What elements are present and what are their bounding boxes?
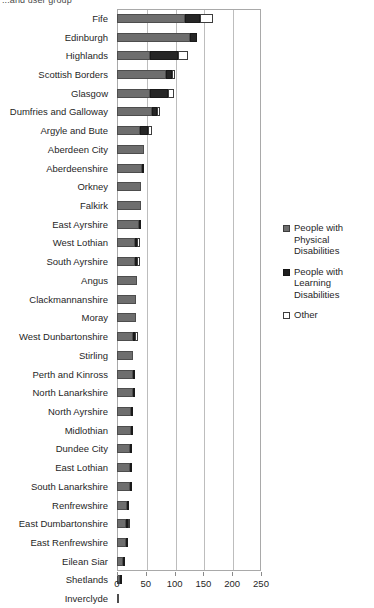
stacked-bar — [117, 407, 133, 416]
bar-segment-physical — [117, 501, 127, 510]
bar-row — [117, 196, 261, 215]
category-label: West Dunbartonshire — [0, 327, 112, 346]
bar-segment-physical — [117, 538, 126, 547]
stacked-bar — [117, 201, 141, 210]
axis-tick-label: 50 — [141, 578, 152, 589]
category-label: South Ayrshire — [0, 252, 112, 271]
bar-row — [117, 421, 261, 440]
bar-segment-learning — [130, 444, 132, 453]
stacked-bar — [117, 220, 141, 229]
bar-row — [117, 65, 261, 84]
category-label: North Ayrshire — [0, 402, 112, 421]
category-label: Argyle and Bute — [0, 121, 112, 140]
stacked-bar — [117, 332, 138, 341]
bar-segment-physical — [117, 276, 137, 285]
bar-row — [117, 346, 261, 365]
category-label: Aberdeenshire — [0, 159, 112, 178]
bar-row — [117, 159, 261, 178]
bar-row — [117, 28, 261, 47]
axis-tick-label: 100 — [167, 578, 183, 589]
category-label: Renfrewshire — [0, 496, 112, 515]
bar-segment-physical — [117, 51, 150, 60]
legend-swatch-other — [283, 312, 290, 319]
category-label: Scottish Borders — [0, 65, 112, 84]
stacked-bar — [117, 594, 119, 603]
axis-tick-mark — [146, 572, 147, 576]
legend-label: People with Learning Disabilities — [294, 266, 373, 301]
category-label: Moray — [0, 309, 112, 328]
stacked-bar — [117, 370, 135, 379]
bar-segment-learning — [142, 164, 144, 173]
category-label: Dumfries and Galloway — [0, 103, 112, 122]
stacked-bar — [117, 295, 136, 304]
bar-segment-learning — [150, 51, 178, 60]
bar-segment-other — [128, 519, 130, 528]
bar-segment-other — [137, 238, 139, 247]
bar-segment-learning — [139, 220, 141, 229]
category-label: Aberdeen City — [0, 140, 112, 159]
legend-label: People with Physical Disabilities — [294, 222, 373, 257]
bar-segment-physical — [117, 107, 152, 116]
stacked-bar — [117, 501, 129, 510]
bar-segment-other — [148, 126, 152, 135]
bar-row — [117, 103, 261, 122]
bar-segment-learning — [126, 538, 128, 547]
stacked-bar — [117, 33, 197, 42]
category-axis-labels: FifeEdinburghHighlandsScottish BordersGl… — [0, 9, 112, 571]
bar-row — [117, 327, 261, 346]
bar-segment-learning — [140, 126, 148, 135]
category-label: Clackmannanshire — [0, 290, 112, 309]
bar-row — [117, 84, 261, 103]
bar-row — [117, 9, 261, 28]
bar-segment-physical — [117, 238, 135, 247]
bar-row — [117, 121, 261, 140]
bar-segment-other — [172, 70, 175, 79]
bar-segment-learning — [131, 407, 133, 416]
bar-row — [117, 477, 261, 496]
category-label: Highlands — [0, 46, 112, 65]
bar-segment-physical — [117, 14, 185, 23]
chart-legend: People with Physical DisabilitiesPeople … — [283, 222, 373, 330]
stacked-bar — [117, 238, 140, 247]
bar-segment-physical — [117, 164, 142, 173]
bar-segment-physical — [117, 70, 166, 79]
bar-segment-physical — [117, 519, 126, 528]
bar-segment-physical — [117, 295, 136, 304]
bar-segment-learning — [133, 388, 135, 397]
bar-row — [117, 177, 261, 196]
bar-row — [117, 271, 261, 290]
stacked-bar — [117, 107, 160, 116]
bar-segment-physical — [117, 594, 119, 603]
category-label: Inverclyde — [0, 589, 112, 608]
bar-segment-physical — [117, 407, 131, 416]
stacked-bar — [117, 164, 144, 173]
bar-segment-learning — [190, 33, 197, 42]
axis-tick-label: 250 — [253, 578, 269, 589]
bar-segment-physical — [117, 444, 130, 453]
bar-segment-other — [178, 51, 188, 60]
stacked-bar — [117, 257, 140, 266]
bar-row — [117, 440, 261, 459]
bar-segment-physical — [117, 201, 141, 210]
stacked-bar — [117, 519, 130, 528]
category-label: East Lothian — [0, 458, 112, 477]
bar-row — [117, 234, 261, 253]
bar-row — [117, 514, 261, 533]
stacked-bar — [117, 557, 125, 566]
bar-segment-other — [200, 14, 213, 23]
bar-segment-physical — [117, 33, 190, 42]
bar-segment-physical — [117, 332, 133, 341]
bar-row — [117, 252, 261, 271]
stacked-bar — [117, 51, 188, 60]
axis-tick-mark — [232, 572, 233, 576]
category-label: Eilean Siar — [0, 552, 112, 571]
axis-tick-label: 200 — [224, 578, 240, 589]
bar-rows-container — [117, 9, 261, 571]
bar-segment-other — [157, 107, 159, 116]
bar-row — [117, 402, 261, 421]
category-label: East Ayrshire — [0, 215, 112, 234]
value-axis: 050100150200250 — [117, 572, 261, 594]
bar-segment-physical — [117, 388, 133, 397]
axis-tick-mark — [117, 572, 118, 576]
category-label: East Renfrewshire — [0, 533, 112, 552]
